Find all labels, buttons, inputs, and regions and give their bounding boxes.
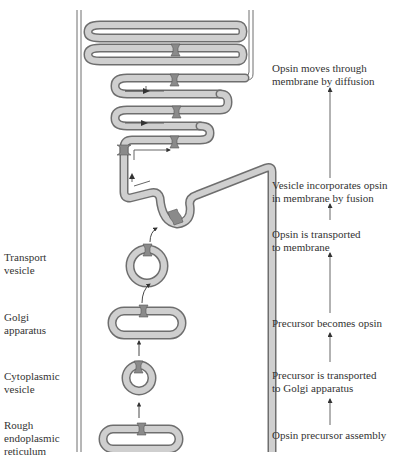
- label-line: endoplasmic: [4, 432, 60, 445]
- step-line: in membrane by fusion: [272, 192, 387, 205]
- step-vesicle-fusion: Vesicle incorporates opsin in membrane b…: [272, 179, 387, 205]
- step-line: Opsin is transported: [272, 228, 361, 241]
- step-transport-to-membrane: Opsin is transported to membrane: [272, 228, 361, 254]
- label-line: Golgi: [4, 311, 46, 324]
- step-line: membrane by diffusion: [272, 75, 374, 88]
- step-line: Opsin moves through: [272, 62, 374, 75]
- label-line: vesicle: [4, 264, 46, 277]
- step-line: Precursor becomes opsin: [272, 317, 382, 330]
- step-precursor-becomes-opsin: Precursor becomes opsin: [272, 317, 382, 330]
- step-line: Opsin precursor assembly: [272, 429, 386, 442]
- step-line: Precursor is transported: [272, 369, 376, 382]
- step-line: to Golgi apparatus: [272, 382, 376, 395]
- step-precursor-assembly: Opsin precursor assembly: [272, 429, 386, 442]
- flow-arrowheads: [129, 88, 150, 179]
- step-transport-to-golgi: Precursor is transported to Golgi appara…: [272, 369, 376, 395]
- label-cytoplasmic-vesicle: Cytoplasmic vesicle: [4, 370, 60, 396]
- label-golgi-apparatus: Golgi apparatus: [4, 311, 46, 337]
- label-line: reticulum: [4, 445, 60, 458]
- label-rough-er: Rough endoplasmic reticulum: [4, 419, 60, 458]
- label-line: Rough: [4, 419, 60, 432]
- step-line: Vesicle incorporates opsin: [272, 179, 387, 192]
- outer-segment-disks: [88, 25, 272, 452]
- label-transport-vesicle: Transport vesicle: [4, 251, 46, 277]
- step-line: to membrane: [272, 241, 361, 254]
- step-opsin-diffusion: Opsin moves through membrane by diffusio…: [272, 62, 374, 88]
- label-line: apparatus: [4, 324, 46, 337]
- label-line: Transport: [4, 251, 46, 264]
- label-line: Cytoplasmic: [4, 370, 60, 383]
- label-line: vesicle: [4, 383, 60, 396]
